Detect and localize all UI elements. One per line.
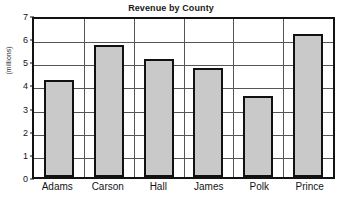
chart-title: Revenue by County bbox=[0, 3, 342, 13]
y-tick-label: 6 bbox=[8, 36, 28, 45]
x-tick-label: Adams bbox=[32, 181, 83, 192]
y-tick-label: 4 bbox=[8, 82, 28, 91]
x-tick-label: Hall bbox=[133, 181, 184, 192]
bar bbox=[293, 34, 323, 177]
bar-chart-figure: Revenue by County (millions) 01234567 Ad… bbox=[0, 0, 342, 204]
y-tick-label: 3 bbox=[8, 105, 28, 114]
bar bbox=[94, 45, 124, 177]
bar-slot bbox=[233, 19, 283, 177]
x-axis-tick-labels: AdamsCarsonHallJamesPolkPrince bbox=[32, 181, 335, 192]
bar-series bbox=[34, 19, 333, 177]
y-tick-label: 1 bbox=[8, 151, 28, 160]
x-tick-label: Prince bbox=[285, 181, 336, 192]
bar bbox=[44, 80, 74, 177]
y-tick-label: 2 bbox=[8, 128, 28, 137]
bar-slot bbox=[84, 19, 134, 177]
bar bbox=[243, 96, 273, 177]
x-tick-label: Polk bbox=[234, 181, 285, 192]
bar-slot bbox=[134, 19, 184, 177]
y-axis-tick-labels: 01234567 bbox=[8, 17, 28, 179]
x-tick-label: James bbox=[184, 181, 235, 192]
bar bbox=[193, 68, 223, 177]
x-tick-label: Carson bbox=[83, 181, 134, 192]
bar-slot bbox=[34, 19, 84, 177]
bar-slot bbox=[183, 19, 233, 177]
bar-slot bbox=[283, 19, 333, 177]
plot-area bbox=[32, 17, 335, 179]
bar bbox=[144, 59, 174, 177]
y-tick-label: 7 bbox=[8, 13, 28, 22]
y-tick-label: 0 bbox=[8, 175, 28, 184]
y-tick-label: 5 bbox=[8, 59, 28, 68]
